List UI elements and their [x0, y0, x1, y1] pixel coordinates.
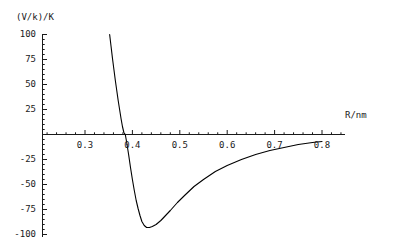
y-tick-label: -75 [6, 204, 36, 214]
x-tick-label: 0.3 [70, 140, 100, 150]
y-tick-label: 75 [6, 54, 36, 64]
x-tick-label: 0.6 [212, 140, 242, 150]
y-tick-label: -50 [6, 179, 36, 189]
potential-curve [110, 35, 322, 228]
y-axis-title: (V/k)/K [16, 12, 54, 22]
y-tick-label: -100 [6, 229, 36, 239]
axes-group [42, 34, 345, 237]
x-axis-ticks [47, 130, 341, 135]
x-tick-label: 0.8 [307, 140, 337, 150]
y-tick-label: 25 [6, 104, 36, 114]
x-tick-label: 0.4 [117, 140, 147, 150]
plot-canvas [0, 0, 393, 248]
y-tick-label: 100 [6, 29, 36, 39]
x-tick-label: 0.5 [165, 140, 195, 150]
y-tick-label: 50 [6, 79, 36, 89]
x-axis-title: R/nm [345, 110, 367, 120]
y-tick-label: -25 [6, 154, 36, 164]
chart-figure: (V/k)/K R/nm -100-75-50-25255075100 0.30… [0, 0, 393, 248]
x-tick-label: 0.7 [260, 140, 290, 150]
